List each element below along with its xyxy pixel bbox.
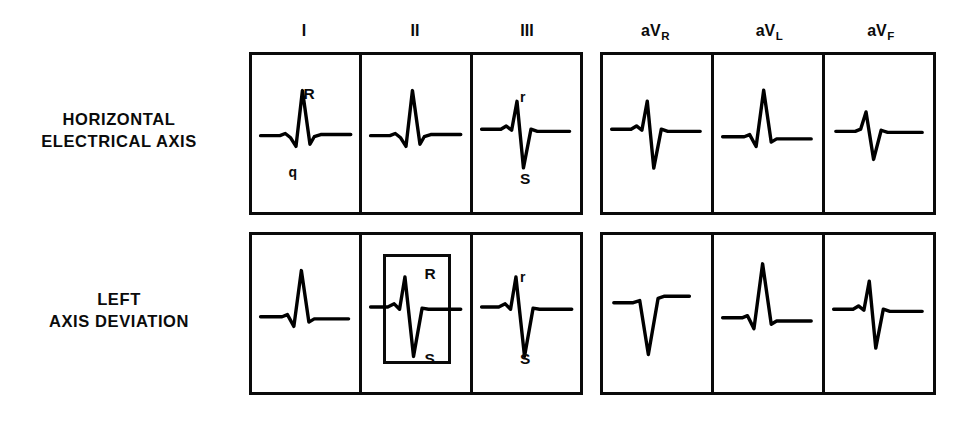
ecg-cell-left-axis-deviation-aVL[interactable] xyxy=(714,235,825,392)
ecg-cell-horizontal-electrical-axis-III[interactable]: rS xyxy=(473,55,580,212)
wave-annotation-r: r xyxy=(520,270,525,284)
ecg-cell-left-axis-deviation-II[interactable]: RS xyxy=(362,235,472,392)
column-header-subscript: F xyxy=(887,30,894,42)
column-header-aVL: aVL xyxy=(713,22,825,46)
ecg-cell-horizontal-electrical-axis-II[interactable] xyxy=(362,55,472,212)
wave-annotation-R: R xyxy=(304,86,315,102)
column-header-II: II xyxy=(359,22,471,46)
ecg-grid-row0-augmented-leads xyxy=(600,52,936,215)
ecg-waveform-aVF-rS xyxy=(825,235,933,392)
ecg-waveform-II-rS-deep xyxy=(362,235,469,392)
ecg-waveform-III-rS xyxy=(473,55,580,212)
wave-annotation-S: S xyxy=(520,171,530,187)
column-header-label: III xyxy=(520,22,533,39)
wave-annotation-R: R xyxy=(425,266,436,282)
ecg-grid-row1-limb-leads: RSrS xyxy=(249,232,583,395)
column-header-I: I xyxy=(249,22,359,46)
column-header-label: II xyxy=(411,22,420,39)
wave-annotation-r: r xyxy=(520,90,525,104)
row-label-line2: AXIS DEVIATION xyxy=(0,310,238,332)
ecg-cell-left-axis-deviation-aVF[interactable] xyxy=(825,235,933,392)
ecg-waveform-aVF-rS-small xyxy=(825,55,933,212)
ecg-waveform-I-qR xyxy=(252,235,359,392)
wave-annotation-S: S xyxy=(520,351,530,367)
ecg-waveform-aVL-qR xyxy=(714,55,822,212)
wave-annotation-q: q xyxy=(288,165,297,179)
ecg-cell-horizontal-electrical-axis-aVR[interactable] xyxy=(603,55,714,212)
column-header-aVF: aVF xyxy=(825,22,936,46)
column-header-label: aV xyxy=(641,22,661,39)
ecg-cell-left-axis-deviation-III[interactable]: rS xyxy=(473,235,580,392)
ecg-grid-row1-augmented-leads xyxy=(600,232,936,395)
ecg-cell-left-axis-deviation-aVR[interactable] xyxy=(603,235,714,392)
row-label-line1: LEFT xyxy=(0,288,238,310)
column-header-III: III xyxy=(471,22,583,46)
ecg-cell-horizontal-electrical-axis-aVF[interactable] xyxy=(825,55,933,212)
ecg-cell-left-axis-deviation-I[interactable] xyxy=(252,235,362,392)
ecg-cell-horizontal-electrical-axis-aVL[interactable] xyxy=(714,55,825,212)
column-header-subscript: L xyxy=(776,30,783,42)
column-header-label: aV xyxy=(756,22,776,39)
column-header-label: aV xyxy=(867,22,887,39)
ecg-waveform-II-qRs xyxy=(362,55,469,212)
ecg-waveform-aVR-QS xyxy=(603,235,711,392)
wave-annotation-S: S xyxy=(425,351,435,367)
row-label-line1: HORIZONTAL xyxy=(0,108,238,130)
ecg-waveform-aVR-rS xyxy=(603,55,711,212)
ecg-waveform-I-qRs xyxy=(252,55,359,212)
column-header-subscript: R xyxy=(661,30,669,42)
column-header-label: I xyxy=(302,22,306,39)
column-header-aVR: aVR xyxy=(600,22,710,46)
row-label-line2: ELECTRICAL AXIS xyxy=(0,130,238,152)
row-label-horizontal-electrical-axis: HORIZONTAL ELECTRICAL AXIS xyxy=(0,108,238,153)
ecg-grid-row0-limb-leads: RqrS xyxy=(249,52,583,215)
ecg-waveform-III-rS-deep xyxy=(473,235,580,392)
ecg-waveform-aVL-qR-tall xyxy=(714,235,822,392)
row-label-left-axis-deviation: LEFT AXIS DEVIATION xyxy=(0,288,238,333)
ecg-cell-horizontal-electrical-axis-I[interactable]: Rq xyxy=(252,55,362,212)
